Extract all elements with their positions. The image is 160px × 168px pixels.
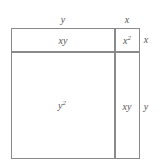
top-label-y: y: [61, 15, 65, 25]
side-label-y: y: [144, 102, 148, 112]
vertical-divider: [114, 28, 116, 159]
horizontal-divider: [11, 51, 140, 53]
side-label-x: x: [144, 35, 148, 45]
outer-square: [11, 28, 140, 159]
top-label-x: x: [125, 15, 129, 25]
region-x-squared: x2: [123, 36, 131, 46]
region-xy-right: xy: [123, 102, 132, 112]
region-xy-top: xy: [59, 36, 68, 46]
region-y-squared: y2: [58, 101, 66, 111]
